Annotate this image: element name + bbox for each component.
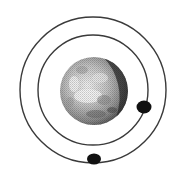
diagram-canvas: Planet with two orbiting moons	[0, 0, 181, 183]
orbit-diagram	[0, 0, 181, 183]
outer-moon	[87, 154, 101, 165]
planet	[58, 55, 130, 127]
inner-moon	[137, 101, 152, 114]
